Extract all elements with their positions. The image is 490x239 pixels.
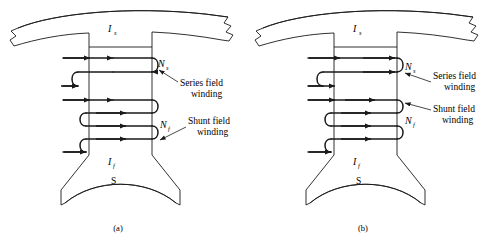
label-series-winding-b-l1: Series field [433, 71, 476, 81]
pole-structure-a [10, 11, 233, 205]
label-Ns-sub-b: s [413, 67, 416, 74]
caption-b: (b) [358, 223, 368, 233]
label-Nf-sub-a: f [168, 125, 171, 132]
panel-a: I s I f S N s N f Series field winding S… [10, 11, 233, 233]
label-Nf-sub-b: f [413, 121, 416, 128]
label-Nf-a: N [159, 119, 168, 130]
panel-b: I s I f S N s N f Series field winding S… [255, 11, 478, 233]
label-pole-S-b: S [356, 176, 361, 186]
label-series-winding-b-l2: winding [444, 82, 475, 92]
label-If-b: I [352, 156, 357, 167]
label-Is-b: I [352, 23, 357, 34]
label-pole-S-a: S [111, 176, 116, 186]
label-shunt-winding-a-l2: winding [197, 127, 228, 137]
label-series-winding-a-l1: Series field [180, 78, 223, 88]
label-series-winding-a-l2: winding [191, 89, 222, 99]
label-shunt-winding-b-l2: winding [442, 115, 473, 125]
label-If-a: I [107, 156, 112, 167]
figure-canvas: I s I f S N s N f Series field winding S… [0, 0, 490, 239]
label-shunt-winding-a-l1: Shunt field [188, 116, 230, 126]
label-shunt-winding-b-l1: Shunt field [433, 104, 475, 114]
leader-lines-b [405, 73, 431, 110]
label-Ns-b: N [404, 61, 413, 72]
caption-a: (a) [113, 223, 123, 233]
label-Ns-sub-a: s [166, 64, 169, 71]
shunt-winding-b-arrowheads [308, 100, 375, 152]
label-Nf-b: N [404, 115, 413, 126]
label-Ns-a: N [157, 58, 166, 69]
series-winding-a [63, 58, 158, 86]
diagram-svg: I s I f S N s N f Series field winding S… [0, 0, 490, 239]
label-Is-a: I [107, 23, 112, 34]
